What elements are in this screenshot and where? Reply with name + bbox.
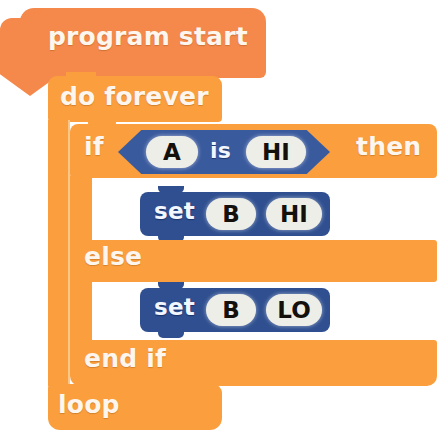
- set-hi-value-pill[interactable]: HI: [266, 198, 322, 230]
- program-start-label: program start: [48, 22, 248, 51]
- block-program-canvas: program start do forever if then A is HI…: [0, 0, 437, 441]
- set-hi-target-pill[interactable]: B: [206, 198, 256, 230]
- condition-operator-label: is: [210, 138, 231, 163]
- do-forever-stem: [48, 120, 70, 386]
- then-keyword-label: then: [356, 132, 421, 161]
- loop-keyword-label: loop: [58, 390, 120, 419]
- if-then-stem: [70, 176, 92, 244]
- if-keyword-label: if: [84, 132, 104, 161]
- do-forever-label: do forever: [60, 82, 209, 111]
- set-lo-bottom-notch-icon: [158, 331, 184, 338]
- condition-operand-right-pill[interactable]: HI: [246, 136, 306, 168]
- else-keyword-label: else: [84, 242, 142, 271]
- condition-operand-left-pill[interactable]: A: [146, 136, 198, 168]
- end-if-keyword-label: end if: [84, 344, 166, 373]
- set-hi-keyword-label: set: [154, 198, 195, 224]
- set-lo-value-pill[interactable]: LO: [266, 294, 322, 326]
- if-else-stem: [70, 278, 92, 344]
- set-lo-keyword-label: set: [154, 294, 195, 320]
- set-lo-target-pill[interactable]: B: [206, 294, 256, 326]
